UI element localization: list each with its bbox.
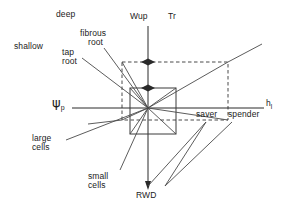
diagonal-extend-upper-right <box>228 44 262 62</box>
label-spender: spender <box>228 110 259 120</box>
label-tr: Tr <box>168 12 176 22</box>
label-saver: saver <box>196 110 217 120</box>
label-deep: deep <box>56 10 75 20</box>
arrowhead-inner-right <box>148 85 155 92</box>
diagonal-upper-right <box>148 62 228 108</box>
leader-saver-inner <box>148 122 206 186</box>
arrowhead-upper-right <box>148 59 155 66</box>
arrowhead-upper-left <box>141 59 148 66</box>
connector-top-right <box>148 88 176 108</box>
diagram-svg <box>0 0 288 209</box>
psi-symbol: ψ <box>52 95 61 110</box>
label-wup: Wup <box>130 12 148 22</box>
label-small-cells-line2: cells <box>88 181 106 191</box>
leader-tap-root <box>82 58 148 108</box>
diagonal-upper-left <box>122 62 148 108</box>
label-rwd: RWD <box>136 191 156 201</box>
leader-fibrous-root <box>104 48 148 108</box>
label-fibrous-root-line2: root <box>88 38 103 48</box>
label-tap-root-line2: root <box>62 57 77 67</box>
label-h-l: hl <box>266 99 272 109</box>
arrowhead-inner-left <box>141 85 148 92</box>
label-shallow: shallow <box>14 42 43 52</box>
leader-spender <box>165 122 232 186</box>
label-large-cells-line2: cells <box>32 143 50 153</box>
diagram-canvas: deep shallow fibrous root tap root Wup T… <box>0 0 288 209</box>
psi-subscript: p <box>61 104 65 111</box>
label-psi-p: ψp <box>52 98 65 110</box>
leader-saver <box>165 122 206 186</box>
